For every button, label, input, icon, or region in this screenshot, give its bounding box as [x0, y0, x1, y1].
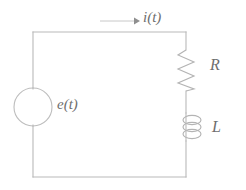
- zigzag-resistor-icon: [178, 50, 194, 91]
- circuit-diagram: i(t) e(t) R L: [0, 0, 246, 190]
- circle-source-icon: [14, 88, 52, 126]
- right-arrow-icon: [134, 18, 140, 25]
- circuit-schematic-canvas: [0, 0, 246, 190]
- inductor-symbol: [183, 113, 201, 141]
- current-arrow: [100, 18, 140, 25]
- voltage-source-symbol: [14, 88, 52, 126]
- resistor-symbol: [178, 50, 194, 91]
- source-label: e(t): [57, 97, 78, 112]
- circuit-wires: [33, 32, 186, 177]
- resistor-label: R: [210, 57, 220, 73]
- inductor-label: L: [212, 119, 221, 135]
- current-label: i(t): [143, 10, 161, 25]
